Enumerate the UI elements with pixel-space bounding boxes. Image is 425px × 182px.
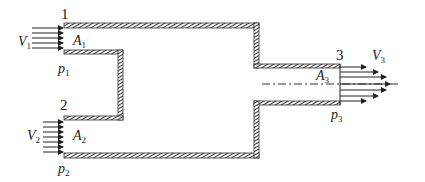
area-3-label: A3 — [315, 68, 330, 85]
top-wall — [64, 23, 259, 28]
velocity-1-label: V1 — [18, 34, 31, 51]
velocity-2-label: V2 — [27, 128, 40, 145]
inner-vertical-wall — [118, 50, 123, 120]
velocity-3-label: V3 — [372, 48, 386, 65]
bottom-wall — [64, 153, 259, 158]
inlet1-lower-wall — [64, 50, 123, 54]
outlet-bottom-wall — [254, 101, 340, 105]
area-1-label: A1 — [72, 33, 86, 50]
section-1-label: 1 — [61, 6, 69, 22]
pipe-walls — [64, 23, 340, 158]
pressure-1-label: p1 — [57, 61, 70, 78]
inlet2-velocity-arrows — [43, 122, 63, 152]
inlet1-velocity-arrows — [32, 28, 63, 48]
inlet2-upper-wall — [64, 116, 123, 120]
section-3-label: 3 — [336, 47, 344, 63]
outlet-top-wall — [254, 64, 340, 68]
pressure-3-label: p3 — [330, 107, 343, 124]
step-lower-vertical — [254, 101, 259, 158]
step-upper-vertical — [254, 23, 259, 68]
pressure-2-label: p2 — [57, 161, 70, 178]
junction-diagram: 1 V1 A1 p1 2 V2 A2 p2 3 V3 A3 p3 — [0, 0, 425, 182]
area-2-label: A2 — [72, 128, 86, 145]
outlet-velocity-arrows — [340, 67, 390, 101]
section-2-label: 2 — [60, 97, 68, 113]
